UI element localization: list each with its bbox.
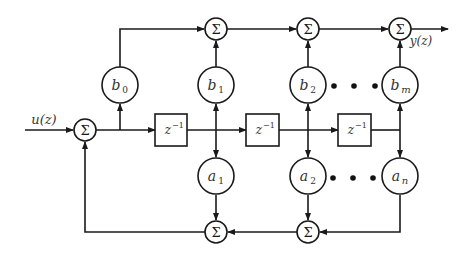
top-sum-node-3: Σ [389,18,411,40]
svg-text:z: z [347,123,355,137]
block-diagram: Σ Σ Σ Σ Σ Σ b 0 b 1 b 2 b m [0,0,468,257]
svg-text:0: 0 [122,85,128,95]
svg-text:2: 2 [310,85,316,95]
svg-text:1: 1 [218,85,224,95]
svg-text:b: b [300,77,309,93]
svg-text:−1: −1 [263,121,275,130]
delay-block-1: z −1 [155,114,187,146]
svg-text:b: b [208,77,217,93]
ellipsis-feedforward [331,83,378,89]
svg-text:b: b [391,77,400,93]
svg-text:a: a [208,168,216,184]
gain-node-b0: b 0 [102,67,138,103]
svg-text:Σ: Σ [303,22,312,37]
svg-text:b: b [112,77,121,93]
svg-text:Σ: Σ [395,22,404,37]
svg-text:a: a [300,168,308,184]
gain-node-b2: b 2 [290,67,326,103]
svg-text:Σ: Σ [211,225,220,240]
svg-text:z: z [164,123,172,137]
gain-node-b1: b 1 [198,67,234,103]
input-signal-label: u(z) [31,112,56,127]
gain-node-bm: b m [382,67,418,103]
output-signal-label: y(z) [409,34,433,48]
svg-text:2: 2 [310,176,316,186]
svg-text:m: m [401,84,410,95]
svg-text:−1: −1 [355,121,367,130]
top-sum-node-2: Σ [297,18,319,40]
svg-text:Σ: Σ [211,22,220,37]
svg-text:Σ: Σ [303,225,312,240]
ellipsis-feedback [330,175,376,181]
feedback-wire [85,142,205,232]
wire-b0-to-sum1 [120,29,204,67]
svg-text:z: z [255,123,263,137]
delay-block-2: z −1 [246,114,279,146]
gain-node-a1: a 1 [198,158,234,194]
input-sum-node: Σ [74,119,96,141]
gain-node-a2: a 2 [290,158,326,194]
wire-an-to-bsum2 [320,195,400,232]
svg-text:Σ: Σ [80,123,89,138]
top-sum-node-1: Σ [205,18,227,40]
svg-text:n: n [402,175,408,186]
svg-text:a: a [392,168,400,184]
bottom-sum-node-1: Σ [205,221,227,243]
svg-text:−1: −1 [172,121,184,130]
gain-node-an: a n [382,158,418,194]
bottom-sum-node-2: Σ [297,221,319,243]
svg-text:1: 1 [218,176,224,186]
delay-block-3: z −1 [338,114,371,146]
